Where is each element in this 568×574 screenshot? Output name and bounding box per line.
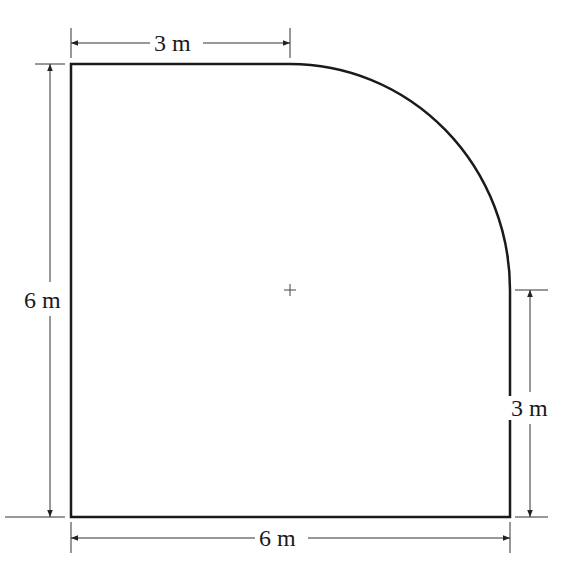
center-mark-icon [284, 284, 296, 296]
diagram-canvas [0, 0, 568, 574]
left-dimension-label: 6 m [21, 288, 64, 312]
right-dimension-label: 3 m [508, 396, 551, 420]
top-dimension-label: 3 m [151, 31, 194, 55]
bottom-dimension-label: 6 m [256, 526, 299, 550]
